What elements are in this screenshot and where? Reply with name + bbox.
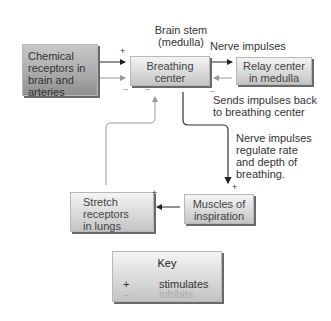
- minus-sign: –: [145, 84, 150, 94]
- muscles-of-inspiration-node: Muscles of inspiration: [184, 194, 254, 224]
- node-text: Chemical: [28, 50, 97, 62]
- chemical-receptors-node: Chemical receptors in brain and arteries: [22, 44, 98, 96]
- regulate-label: Nerve impulses regulate rate and depth o…: [236, 132, 312, 180]
- node-text: brain and: [28, 74, 97, 86]
- node-text: arteries: [28, 86, 97, 98]
- sends-back-line2: to breathing center: [213, 106, 317, 118]
- node-text: Relay center: [237, 60, 311, 72]
- sends-back-line1: Sends impulses back: [213, 94, 317, 106]
- node-text: Stretch: [83, 196, 153, 208]
- key-title: Key: [113, 257, 221, 269]
- node-text: inspiration: [185, 210, 253, 222]
- node-text: Breathing: [131, 60, 209, 72]
- brain-stem-label: Brain stem (medulla): [150, 24, 212, 48]
- nerve-impulses-label: Nerve impulses: [210, 40, 286, 52]
- node-text: receptors: [83, 208, 153, 220]
- relay-center-node: Relay center in medulla: [236, 57, 312, 85]
- key-inhibits-label: inhibits: [159, 288, 193, 300]
- plus-sign: +: [120, 46, 125, 56]
- node-text: Muscles of: [185, 198, 253, 210]
- key-legend: Key + stimulates – inhibits: [112, 251, 222, 302]
- breathing-center-node: Breathing center: [130, 56, 210, 86]
- stretch-receptors-node: Stretch receptors in lungs: [70, 192, 154, 232]
- node-text: receptors in: [28, 62, 97, 74]
- key-minus-symbol: –: [123, 288, 129, 300]
- regulate-line: Nerve impulses: [236, 132, 312, 144]
- regulate-line: and depth of: [236, 156, 312, 168]
- plus-sign: +: [232, 182, 237, 192]
- node-text: center: [131, 72, 209, 84]
- regulate-line: breathing.: [236, 168, 312, 180]
- node-text: in lungs: [83, 220, 153, 232]
- regulate-line: regulate rate: [236, 144, 312, 156]
- minus-sign: –: [210, 86, 215, 96]
- sends-back-label: Sends impulses back to breathing center: [213, 94, 317, 118]
- node-text: in medulla: [237, 72, 311, 84]
- minus-sign: –: [123, 84, 128, 94]
- brain-stem-line1: Brain stem: [150, 24, 212, 36]
- plus-sign: +: [152, 188, 157, 198]
- brain-stem-line2: (medulla): [150, 36, 212, 48]
